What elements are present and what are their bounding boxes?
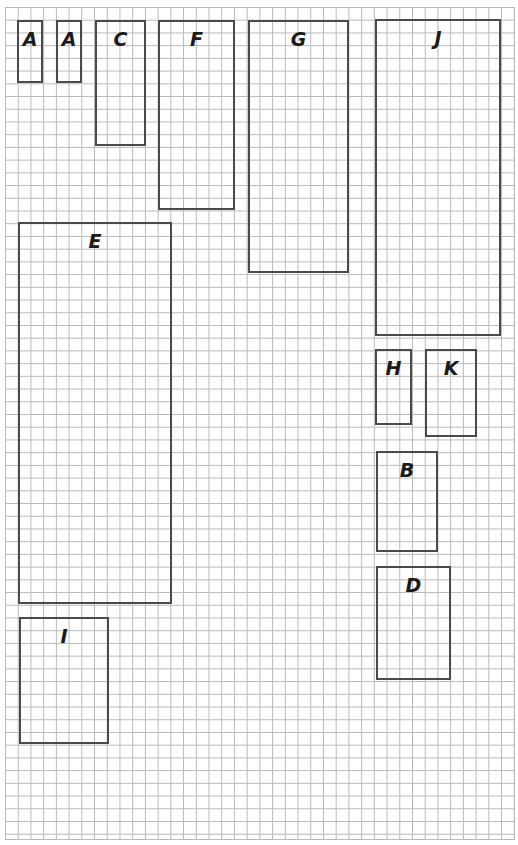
- rectangle-label: B: [378, 459, 436, 481]
- rectangle-label: A: [19, 28, 41, 50]
- rectangle-g: G: [248, 20, 349, 273]
- rectangle-b: B: [376, 451, 438, 552]
- rectangle-label: K: [427, 357, 475, 379]
- rectangle-label: I: [21, 625, 107, 647]
- rectangle-f: F: [158, 20, 235, 210]
- rectangle-d: D: [376, 566, 451, 680]
- rectangle-label: F: [160, 28, 233, 50]
- rectangle-label: G: [250, 28, 347, 50]
- rectangle-k: K: [425, 349, 477, 437]
- rectangle-label: J: [377, 27, 499, 49]
- rectangle-label: H: [377, 357, 410, 379]
- rectangle-label: C: [97, 28, 144, 50]
- rectangle-j: J: [375, 19, 501, 336]
- rectangle-h: H: [375, 349, 412, 425]
- rectangle-label: A: [58, 28, 80, 50]
- rectangle-a: A: [56, 20, 82, 83]
- rectangle-c: C: [95, 20, 146, 146]
- rectangle-i: I: [19, 617, 109, 744]
- rectangle-label: E: [20, 230, 170, 252]
- rectangle-a: A: [17, 20, 43, 83]
- rectangle-e: E: [18, 222, 172, 604]
- rectangle-label: D: [378, 574, 449, 596]
